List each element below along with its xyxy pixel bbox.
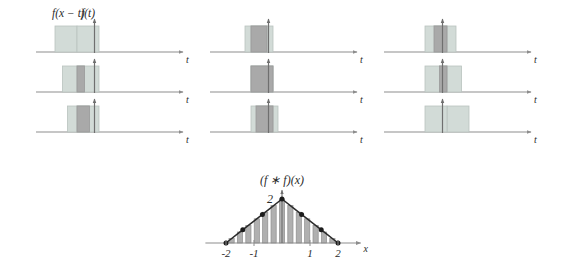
fixed-rect-f-t xyxy=(425,106,447,132)
convolution-figure: tf(x − t)f(t)tttttttt -2-1122x(f ∗ f)(x) xyxy=(0,0,564,260)
x-tick-label: 2 xyxy=(335,247,341,259)
overlap-region xyxy=(256,106,273,132)
panel-axis-label-t: t xyxy=(186,94,189,105)
y-tick-label-peak: 2 xyxy=(267,192,273,206)
panel-axis-label-t: t xyxy=(186,54,189,65)
curve-vertex-dot xyxy=(240,227,245,232)
overlap-region xyxy=(251,66,273,92)
curve-vertex-dot xyxy=(319,227,324,232)
panel-axis-label-t: t xyxy=(534,134,537,145)
convolution-bar xyxy=(271,206,276,243)
conv-plot-title: (f ∗ f)(x) xyxy=(260,173,304,187)
panel-axis-label-t: t xyxy=(360,94,363,105)
x-tick-label: -2 xyxy=(221,247,231,259)
label-f-x-minus-t: f(x − t) xyxy=(52,7,85,20)
sliding-rect-f-x-minus-t xyxy=(55,26,77,52)
panel-axis-label-t: t xyxy=(360,54,363,65)
label-f-t: f(t) xyxy=(81,7,95,20)
convolution-bar xyxy=(263,212,268,243)
x-tick-label: 1 xyxy=(307,247,313,259)
convolution-bar xyxy=(288,206,293,243)
overlap-region xyxy=(77,106,90,132)
convolution-bar xyxy=(313,225,318,243)
curve-vertex-dot xyxy=(299,212,304,217)
fixed-rect-f-t xyxy=(77,26,99,52)
convolution-bar xyxy=(305,219,310,243)
panel-axis-label-t: t xyxy=(534,94,537,105)
curve-vertex-dot xyxy=(280,197,285,202)
panel-axis-label-t: t xyxy=(186,134,189,145)
convolution-bar xyxy=(246,225,251,243)
panel-axis-label-t: t xyxy=(534,54,537,65)
overlap-region xyxy=(434,26,447,52)
overlap-region xyxy=(77,66,85,92)
overlap-region xyxy=(440,66,448,92)
sliding-rect-f-x-minus-t xyxy=(447,106,469,132)
conv-axis-label-x: x xyxy=(363,243,369,254)
overlap-region xyxy=(251,26,267,52)
panel-axis-label-t: t xyxy=(360,134,363,145)
x-tick-label: -1 xyxy=(249,247,258,259)
convolution-bar xyxy=(254,219,259,243)
curve-vertex-dot xyxy=(260,212,265,217)
convolution-bar xyxy=(296,212,301,243)
